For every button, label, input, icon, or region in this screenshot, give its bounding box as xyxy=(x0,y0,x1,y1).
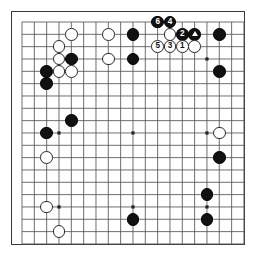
go-board-diagram: 642531 xyxy=(0,0,260,258)
board-border xyxy=(11,11,245,245)
